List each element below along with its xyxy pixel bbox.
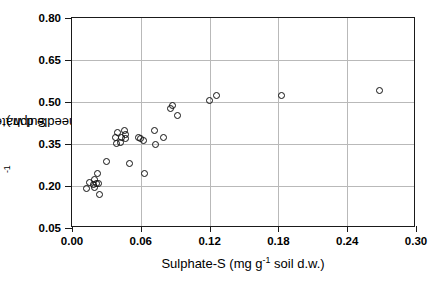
data-point <box>126 160 133 167</box>
x-axis-tick-label: 0.18 <box>267 235 289 247</box>
scatter-chart-figure: Sulphate-S (mg g-1 needle d.w.) 0.050.20… <box>0 0 439 289</box>
y-axis-title: Sulphate-S (mg g-1 needle d.w.) <box>0 17 22 227</box>
y-axis-tick <box>65 144 72 145</box>
y-axis-tick <box>65 18 72 19</box>
data-point <box>213 92 220 99</box>
x-axis-tick-label: 0.06 <box>130 235 152 247</box>
x-gridline <box>278 18 279 226</box>
y-axis-title-superscript: -1 <box>2 165 12 173</box>
data-point <box>141 170 148 177</box>
y-axis-tick <box>65 228 72 229</box>
x-axis-tick <box>278 226 279 232</box>
data-point <box>151 127 158 134</box>
x-axis-tick-label: 0.00 <box>61 235 83 247</box>
y-gridline <box>72 186 414 187</box>
x-axis-tick <box>210 226 211 232</box>
data-point <box>152 141 159 148</box>
data-point <box>95 180 102 187</box>
y-axis-tick <box>65 102 72 103</box>
y-axis-title-text: Sulphate-S (mg g-1 needle d.w.) <box>0 71 34 172</box>
x-axis-tick <box>72 226 73 232</box>
x-axis-tick-label: 0.24 <box>336 235 358 247</box>
y-axis-tick <box>65 60 72 61</box>
data-point <box>376 87 383 94</box>
x-axis-tick-label: 0.12 <box>198 235 220 247</box>
y-axis-tick-label: 0.65 <box>39 54 61 66</box>
x-gridline <box>347 18 348 226</box>
y-axis-tick-label: 0.20 <box>39 180 61 192</box>
data-point <box>94 170 101 177</box>
x-axis-tick <box>347 226 348 232</box>
data-point <box>174 112 181 119</box>
x-axis-tick <box>141 226 142 232</box>
x-gridline <box>210 18 211 226</box>
data-point <box>103 158 110 165</box>
y-axis-tick-label: 0.50 <box>39 96 61 108</box>
data-point <box>96 191 103 198</box>
data-point <box>83 185 90 192</box>
x-axis-tick <box>416 226 417 232</box>
plot-area: 0.050.200.350.500.650.800.000.060.120.18… <box>71 17 415 227</box>
y-axis-tick <box>65 186 72 187</box>
x-axis-title: Sulphate-S (mg g-1 soil d.w.) <box>71 256 415 271</box>
data-point <box>206 97 213 104</box>
data-point <box>169 102 176 109</box>
data-point <box>160 134 167 141</box>
y-gridline <box>72 60 414 61</box>
data-point <box>278 92 285 99</box>
y-axis-tick-label: 0.80 <box>39 12 61 24</box>
y-gridline <box>72 102 414 103</box>
x-gridline <box>141 18 142 226</box>
x-axis-tick-label: 0.30 <box>405 235 427 247</box>
y-axis-tick-label: 0.35 <box>39 138 61 150</box>
data-point <box>140 137 147 144</box>
y-axis-tick-label: 0.05 <box>39 222 61 234</box>
